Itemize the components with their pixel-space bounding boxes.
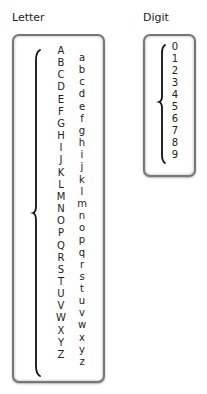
digit-1: 1 [170,53,180,65]
digit-8: 8 [170,137,180,149]
digit-5: 5 [170,101,180,113]
digit-2: 2 [170,65,180,77]
digit-3: 3 [170,77,180,89]
digit-9: 9 [170,149,180,161]
digit-6: 6 [170,113,180,125]
digit-7: 7 [170,125,180,137]
digit-4: 4 [170,89,180,101]
digit-0: 0 [170,41,180,53]
digit-column: 0 1 2 3 4 5 6 7 8 9 [170,41,180,161]
